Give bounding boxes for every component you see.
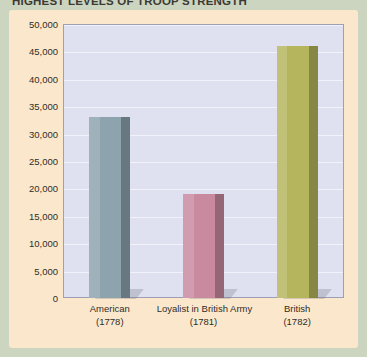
y-axis-tick-label: 5,000 [4,265,58,276]
category-name: Loyalist in British Army [157,303,253,314]
bar-series [63,24,344,298]
y-axis-tick-label: 50,000 [4,19,58,30]
y-axis-tick-label: 0 [4,293,58,304]
category-name: American [90,303,130,314]
chart-title: HIGHEST LEVELS OF TROOP STRENGTH [12,0,247,7]
x-axis-category-label: Loyalist in British Army(1781) [157,302,251,328]
bar-side-shading [215,194,224,298]
bar [89,117,130,298]
y-axis-tick-label: 20,000 [4,183,58,194]
y-axis-tick-label: 10,000 [4,238,58,249]
y-axis-tick-label: 25,000 [4,156,58,167]
bar-highlight [89,117,100,298]
category-year: (1778) [63,315,157,328]
y-axis-tick-label: 35,000 [4,101,58,112]
chart-figure: HIGHEST LEVELS OF TROOP STRENGTH 50,0004… [0,0,367,357]
y-axis-tick-label: 40,000 [4,73,58,84]
bar-highlight [277,46,288,298]
bar-body [183,194,224,298]
x-axis-category-label: British(1782) [250,302,344,328]
bar [183,194,224,298]
y-axis-tick-label: 30,000 [4,128,58,139]
bar [277,46,318,298]
category-year: (1782) [250,315,344,328]
category-year: (1781) [157,315,251,328]
y-axis-labels: 50,00045,00040,00035,00030,00025,00020,0… [0,24,58,298]
bar-body [89,117,130,298]
bar-highlight [183,194,194,298]
bar-side-shading [121,117,130,298]
bar-body [277,46,318,298]
y-axis-tick-label: 15,000 [4,210,58,221]
y-axis-tick-label: 45,000 [4,46,58,57]
bar-side-shading [309,46,318,298]
category-name: British [284,303,310,314]
x-axis-category-label: American(1778) [63,302,157,328]
